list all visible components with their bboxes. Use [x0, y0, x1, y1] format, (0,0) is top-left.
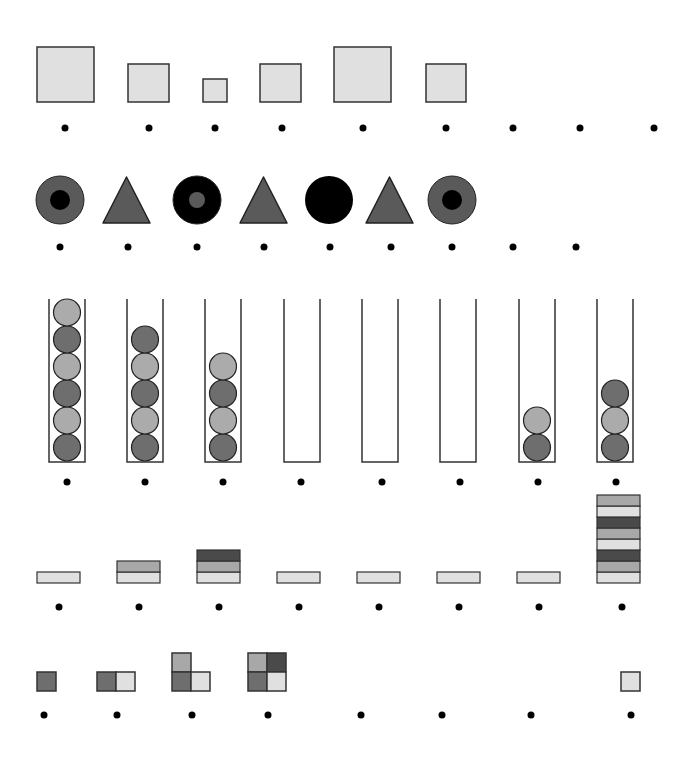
bar-layer: [197, 561, 240, 572]
ball: [54, 407, 81, 434]
square-shape: [128, 64, 169, 102]
ball: [132, 353, 159, 380]
triangle-shape: [103, 177, 150, 223]
bar-layer: [197, 572, 240, 583]
ball: [54, 353, 81, 380]
square-shape: [334, 47, 391, 102]
marker-dot: [194, 244, 201, 251]
tube: [440, 299, 476, 462]
marker-dot: [261, 244, 268, 251]
square-shape: [37, 47, 94, 102]
marker-dot: [265, 712, 272, 719]
tile-group: [37, 672, 56, 691]
ball: [54, 434, 81, 461]
bar-stack: [277, 572, 320, 583]
row-tile-groups: [37, 653, 640, 719]
ball: [524, 407, 551, 434]
marker-dot: [136, 604, 143, 611]
marker-dot: [327, 244, 334, 251]
marker-dot: [62, 125, 69, 132]
marker-dot: [535, 479, 542, 486]
marker-dot: [216, 604, 223, 611]
marker-dot: [298, 479, 305, 486]
ball: [132, 407, 159, 434]
ring-inner-circle: [50, 190, 70, 210]
bar-layer: [117, 572, 160, 583]
ball: [524, 434, 551, 461]
marker-dot: [510, 125, 517, 132]
ball: [602, 380, 629, 407]
tile-cell: [191, 672, 210, 691]
tube: [519, 299, 555, 462]
ring-inner-circle: [442, 190, 462, 210]
marker-dot: [528, 712, 535, 719]
triangle-shape: [240, 177, 287, 223]
tile-cell: [172, 653, 191, 672]
marker-dot: [64, 479, 71, 486]
tile-cell: [248, 672, 267, 691]
ball: [210, 380, 237, 407]
ball: [210, 434, 237, 461]
marker-dot: [279, 125, 286, 132]
bar-stack: [517, 572, 560, 583]
marker-dot: [57, 244, 64, 251]
marker-dot: [449, 244, 456, 251]
marker-dot: [114, 712, 121, 719]
marker-dot: [651, 125, 658, 132]
puzzle-canvas: [0, 0, 682, 762]
tube: [205, 299, 241, 462]
tile-cell: [172, 672, 191, 691]
square-shape: [260, 64, 301, 102]
marker-dot: [212, 125, 219, 132]
tube-outline: [362, 299, 398, 462]
marker-dot: [443, 125, 450, 132]
ball: [210, 407, 237, 434]
bar-stack: [197, 550, 240, 583]
puzzle-diagram: [0, 0, 682, 762]
tube: [49, 299, 85, 462]
marker-dot: [510, 244, 517, 251]
marker-dot: [619, 604, 626, 611]
marker-dot: [220, 479, 227, 486]
bar-layer: [597, 495, 640, 506]
tile-group: [621, 672, 640, 691]
tube: [127, 299, 163, 462]
tile-cell: [97, 672, 116, 691]
marker-dot: [379, 479, 386, 486]
ball: [132, 434, 159, 461]
bar-stack: [597, 495, 640, 583]
tube: [284, 299, 320, 462]
tile-cell: [116, 672, 135, 691]
marker-dot: [456, 604, 463, 611]
tile-cell: [248, 653, 267, 672]
bar-layer: [117, 561, 160, 572]
ball: [602, 407, 629, 434]
marker-dot: [439, 712, 446, 719]
marker-dot: [536, 604, 543, 611]
tile-group: [172, 653, 210, 691]
bar-layer: [597, 539, 640, 550]
marker-dot: [360, 125, 367, 132]
bar-layer: [277, 572, 320, 583]
marker-dot: [56, 604, 63, 611]
tile-cell: [267, 653, 286, 672]
bar-layer: [357, 572, 400, 583]
tile-cell: [267, 672, 286, 691]
tile-cell: [621, 672, 640, 691]
square-shape: [426, 64, 466, 102]
marker-dot: [189, 712, 196, 719]
tube: [362, 299, 398, 462]
bar-layer: [37, 572, 80, 583]
marker-dot: [573, 244, 580, 251]
ball: [54, 326, 81, 353]
marker-dot: [628, 712, 635, 719]
tile-cell: [37, 672, 56, 691]
ring-inner-circle: [189, 192, 205, 208]
marker-dot: [457, 479, 464, 486]
ball: [54, 380, 81, 407]
tile-group: [97, 672, 135, 691]
bar-layer: [597, 572, 640, 583]
bar-layer: [597, 561, 640, 572]
row-squares: [37, 47, 658, 132]
marker-dot: [358, 712, 365, 719]
